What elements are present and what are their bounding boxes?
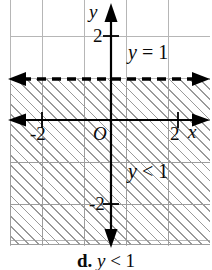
origin-label: O [93, 124, 107, 143]
region-operator: < [137, 160, 158, 182]
y-tick-label-2: 2 [93, 26, 103, 45]
region-variable: y [128, 160, 137, 182]
caption-expression: y < 1 [97, 250, 135, 270]
x-tick-label-minus2: -2 [30, 124, 46, 143]
figure-caption: d. y < 1 [0, 250, 212, 270]
boundary-line-equation-label: y = 1 [128, 42, 168, 62]
x-tick-label-2: 2 [170, 124, 180, 143]
boundary-eq-operator: = [137, 41, 158, 63]
boundary-eq-variable: y [128, 41, 137, 63]
boundary-eq-value: 1 [158, 41, 168, 63]
caption-value: 1 [126, 250, 136, 270]
shaded-region-label: y < 1 [128, 161, 168, 181]
x-axis-label: x [188, 122, 196, 141]
region-value: 1 [158, 160, 168, 182]
y-axis-label: y [89, 2, 97, 21]
caption-operator: < [105, 250, 125, 270]
boundary-line-dashed [8, 72, 210, 86]
y-tick-label-minus2: -2 [89, 194, 105, 213]
caption-letter: d. [77, 250, 97, 270]
inequality-graph-figure: y x 2 -2 -2 2 O y = 1 y < 1 d. y < 1 [0, 0, 212, 270]
